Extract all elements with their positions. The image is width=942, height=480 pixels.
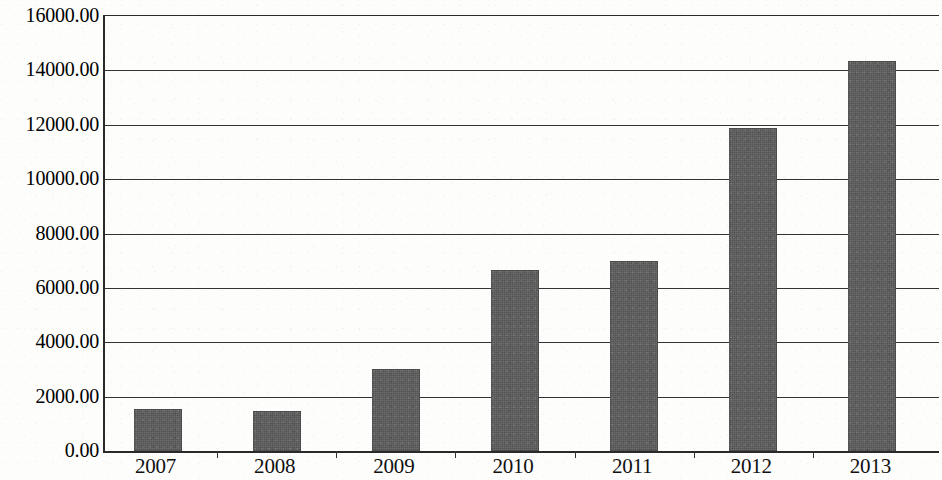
x-axis-tick-label: 2013 [820,455,920,477]
x-axis-tick-label: 2009 [344,455,444,477]
x-axis-tick-label: 2011 [582,455,682,477]
x-axis-tick-label: 2010 [463,455,563,477]
x-axis-tick-labels: 2007200820092010201120122013 [0,0,942,480]
x-axis-tick-label: 2008 [225,455,325,477]
x-axis-tick-label: 2007 [106,455,206,477]
bar-chart: 0.002000.004000.006000.008000.0010000.00… [0,0,942,480]
x-axis-tick-label: 2012 [701,455,801,477]
